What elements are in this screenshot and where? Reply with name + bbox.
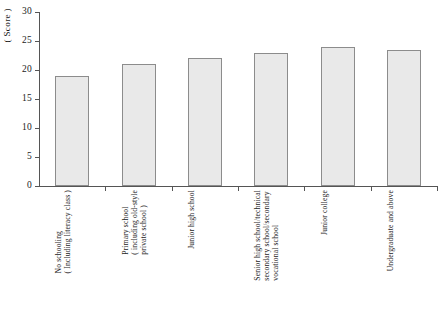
bar: [387, 50, 421, 186]
x-axis-tick-mark: [371, 186, 372, 191]
plot-area: [39, 12, 437, 186]
y-axis-tick: 10: [0, 128, 39, 129]
bar: [254, 53, 288, 186]
y-axis-tick: 5: [0, 157, 39, 158]
x-axis-tick-mark: [304, 186, 305, 191]
x-axis-category-label: Junior high school: [187, 190, 196, 249]
y-axis-tick-label: 20: [22, 63, 32, 76]
y-axis-tick-label: 5: [27, 150, 32, 163]
y-axis-tick-label: 15: [22, 92, 32, 105]
x-axis-tick-mark: [105, 186, 106, 191]
x-axis-tick-mark: [437, 186, 438, 191]
y-axis-tick: 15: [0, 99, 39, 100]
x-axis-category-label: Senior high school/technical secondary s…: [253, 190, 281, 281]
x-axis-category-label: Junior college: [320, 190, 329, 235]
y-axis-tick: 0: [0, 186, 39, 187]
x-axis-category-label: Primary school ( including old-style pri…: [121, 190, 149, 255]
bar: [321, 47, 355, 186]
y-axis-tick-label: 0: [27, 179, 32, 192]
x-axis-tick-mark: [172, 186, 173, 191]
x-axis-category-label: Undergraduate and above: [386, 190, 395, 271]
y-axis-tick: 25: [0, 41, 39, 42]
y-axis-tick: 30: [0, 12, 39, 13]
bar-chart: ( Score ) 302520151050 No schooling ( In…: [0, 0, 448, 314]
y-axis-title: ( Score ): [2, 8, 15, 43]
bar: [122, 64, 156, 186]
y-axis-tick: 20: [0, 70, 39, 71]
y-axis-tick-label: 10: [22, 121, 32, 134]
y-axis-tick-label: 30: [22, 5, 32, 18]
bar: [55, 76, 89, 186]
y-axis-tick-mark: [35, 186, 39, 187]
x-axis-category-label: No schooling ( Including literacy class …: [54, 190, 72, 273]
x-axis-tick-mark: [238, 186, 239, 191]
y-axis-tick-label: 25: [22, 34, 32, 47]
bar: [188, 58, 222, 186]
